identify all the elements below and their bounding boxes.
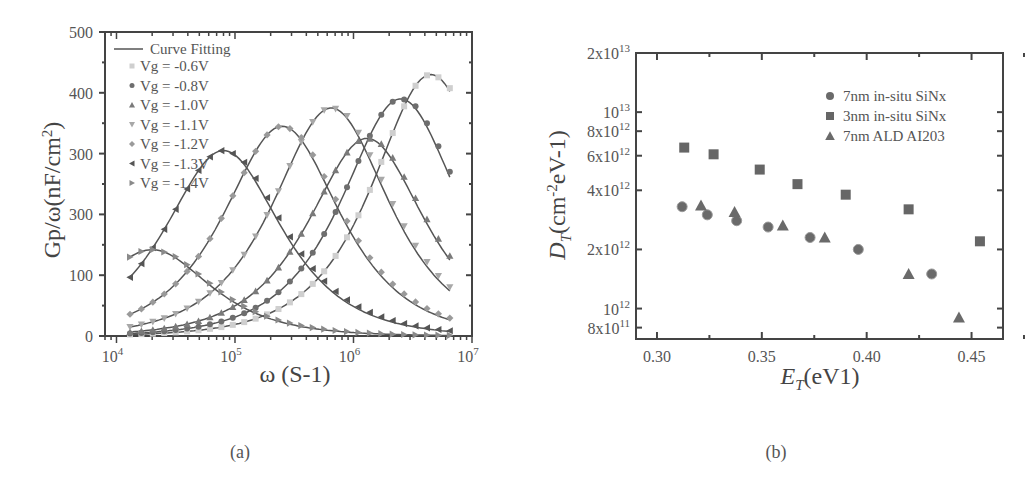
- chart-panel-a: 0100300300400500 104105106107 Curve Fitt…: [39, 24, 479, 463]
- data-point: [138, 305, 145, 312]
- data-point: [172, 206, 179, 213]
- x-tick-label: 106: [339, 345, 361, 365]
- data-point: [975, 236, 985, 246]
- y-tick-label: 4x1012: [587, 179, 630, 199]
- y-tick-label: 1013: [603, 101, 631, 121]
- data-point: [344, 328, 351, 335]
- x-tick-label: 105: [220, 345, 242, 365]
- y-axis-b: 8x101110122x10124x10126x10128x101210132x…: [587, 42, 1003, 337]
- data-point: [184, 305, 191, 312]
- data-point: [424, 331, 431, 338]
- data-point: [447, 169, 453, 175]
- x-tick-label: 0.45: [958, 348, 986, 365]
- y-axis-a: 0100300300400500: [69, 24, 472, 345]
- y-tick-label: 8x1011: [587, 317, 630, 337]
- data-point: [275, 123, 282, 130]
- data-point: [390, 99, 396, 105]
- data-point: [401, 331, 408, 338]
- data-point: [275, 188, 282, 195]
- data-point: [447, 85, 453, 91]
- data-point: [286, 163, 293, 170]
- data-point: [332, 196, 339, 203]
- legend-b: 7nm in-situ SiNx3nm in-situ SiNx7nm ALD …: [825, 88, 947, 144]
- data-point: [321, 268, 327, 274]
- data-point: [241, 310, 247, 316]
- x-tick-label: 0.30: [643, 348, 671, 365]
- data-point: [446, 284, 453, 291]
- data-point: [321, 173, 328, 180]
- data-point: [401, 103, 407, 109]
- data-point: [355, 237, 362, 244]
- data-point: [218, 318, 224, 324]
- data-point: [333, 209, 339, 215]
- data-point: [310, 281, 316, 287]
- legend-marker-icon: [130, 180, 136, 186]
- data-point: [853, 244, 863, 254]
- data-point: [435, 74, 441, 80]
- data-point: [412, 298, 419, 305]
- legend-label: 3nm in-situ SiNx: [843, 108, 947, 124]
- data-point: [777, 219, 789, 230]
- data-point: [819, 232, 831, 243]
- data-point: [287, 319, 294, 326]
- legend-label: Curve Fitting: [150, 41, 231, 57]
- data-point: [423, 324, 430, 331]
- data-point: [252, 233, 259, 240]
- x-axis-title-a: ω (S-1): [259, 361, 330, 387]
- data-point: [378, 112, 384, 118]
- chart-panel-b: 8x101110122x10124x10126x10128x101210132x…: [544, 42, 1024, 463]
- data-point: [413, 331, 420, 338]
- data-point: [229, 150, 236, 157]
- data-point: [424, 120, 430, 126]
- x-axis-title-b: ET(eV1): [780, 363, 860, 393]
- data-point: [367, 187, 373, 193]
- y-tick-label: 0: [85, 328, 93, 345]
- data-point: [264, 298, 270, 304]
- data-point: [138, 248, 145, 255]
- data-point: [763, 222, 773, 232]
- data-point: [903, 268, 915, 279]
- x-tick-label: 0.35: [748, 348, 776, 365]
- legend-marker-icon: [129, 141, 135, 147]
- data-point: [424, 72, 430, 78]
- y-tick-label: 6x1012: [587, 145, 630, 165]
- data-point: [218, 147, 225, 154]
- fit-curves: [130, 75, 450, 336]
- data-point: [287, 279, 293, 285]
- data-point: [229, 303, 236, 310]
- data-point: [298, 291, 304, 297]
- legend-marker-icon: [826, 112, 834, 120]
- data-point: [677, 202, 687, 212]
- data-point: [230, 315, 236, 321]
- data-point: [298, 266, 304, 272]
- data-point: [412, 322, 419, 329]
- data-point: [252, 148, 259, 155]
- data-point: [389, 281, 396, 288]
- panel-caption-a: (a): [230, 442, 250, 463]
- data-point: [161, 226, 168, 233]
- data-point: [127, 253, 134, 260]
- legend-label: 7nm ALD AI203: [843, 128, 945, 144]
- data-point: [344, 234, 350, 240]
- data-point: [241, 319, 247, 325]
- data-point: [927, 269, 937, 279]
- data-point: [310, 250, 316, 256]
- data-markers-b: [677, 143, 985, 323]
- data-point: [126, 311, 133, 318]
- data-point: [298, 230, 305, 237]
- data-point: [218, 215, 225, 222]
- data-point: [413, 103, 419, 109]
- data-point: [702, 210, 712, 220]
- data-point: [321, 231, 327, 237]
- data-point: [218, 324, 224, 330]
- data-point: [378, 159, 384, 165]
- data-point: [229, 192, 236, 199]
- legend-marker-icon: [825, 131, 835, 140]
- data-point: [241, 169, 248, 176]
- data-point: [207, 321, 213, 327]
- data-point: [309, 151, 316, 158]
- data-point: [309, 210, 316, 217]
- y-axis-title-b: DT(cm-2eV-1): [544, 130, 574, 260]
- data-point: [218, 309, 225, 316]
- y-axis-title-a: Gp/ω(nF/cm2): [39, 122, 65, 259]
